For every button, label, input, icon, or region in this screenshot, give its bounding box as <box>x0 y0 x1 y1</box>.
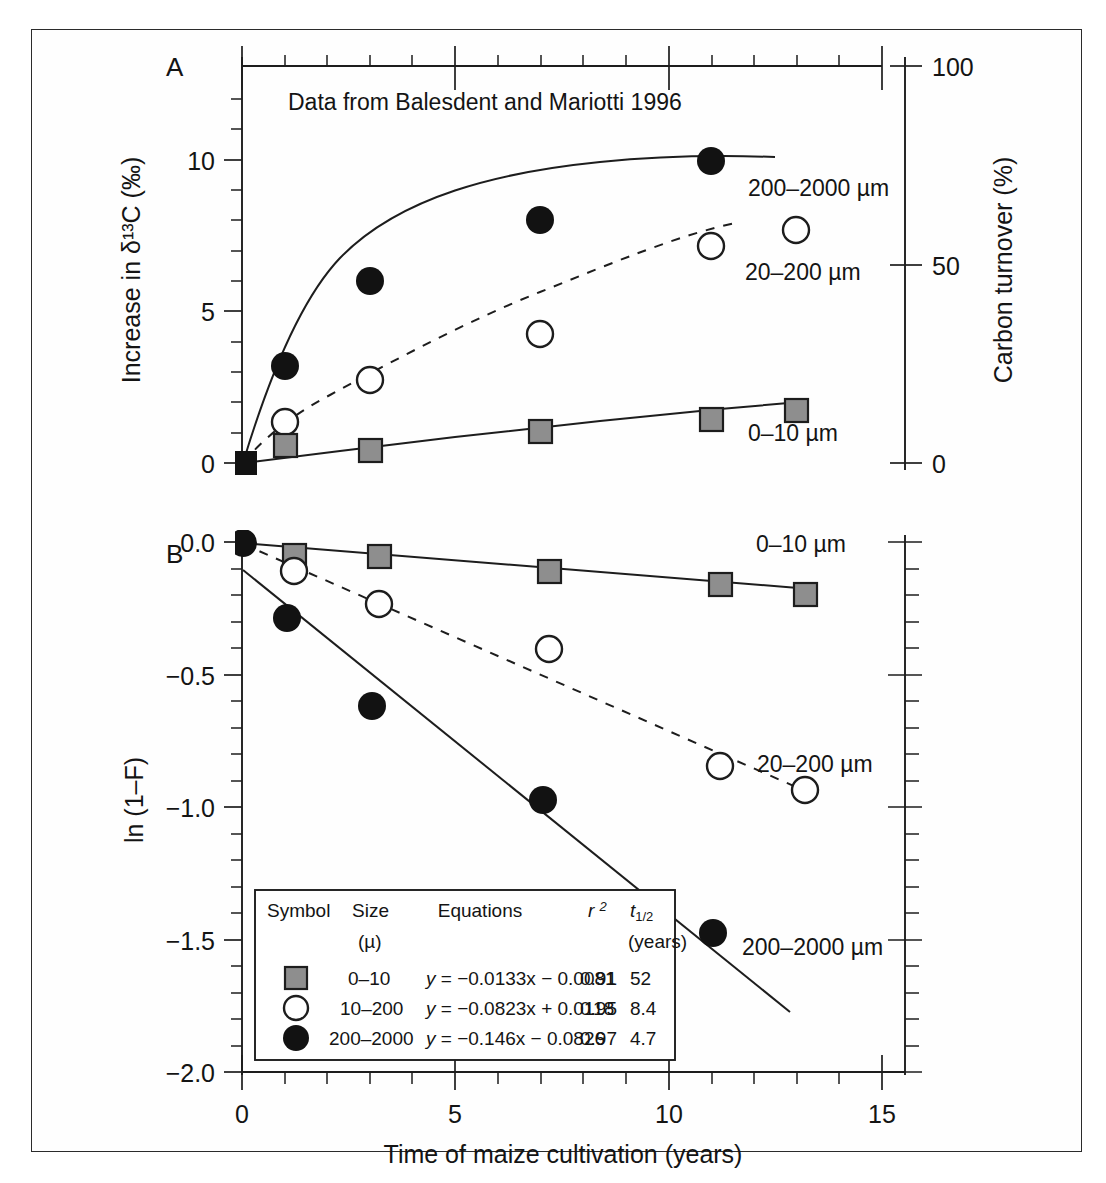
legend-equation-200-2000: y = −0.146x − 0.0826 <box>424 1028 605 1049</box>
panel-b-ytick-0: 0.0 <box>180 529 215 557</box>
legend-header-symbol: Symbol <box>267 900 330 921</box>
xtick-10: 10 <box>655 1100 683 1128</box>
panel-a-curve-200-2000 <box>243 156 775 463</box>
legend-subheader-thalf-unit: (years) <box>628 931 687 952</box>
panel-b-markers-200-2000 <box>229 529 727 947</box>
legend-box-group: Symbol Size Equations r 2 t1/2 (µ) (year… <box>255 890 687 1060</box>
legend-size-200-2000: 200–2000 <box>329 1028 414 1049</box>
panel-b-y-axis-title: ln (1–F) <box>120 757 148 843</box>
legend-size-0-10: 0–10 <box>348 968 390 989</box>
legend-thalf-200-2000: 4.7 <box>630 1028 656 1049</box>
panel-b: B <box>120 529 922 1168</box>
legend-r2-0-10: 0.91 <box>580 968 617 989</box>
legend-subheader-size-unit: (µ) <box>358 931 382 952</box>
legend-symbol-gray-square <box>285 967 307 989</box>
panel-a-right-tick-50: 50 <box>932 252 960 280</box>
panel-a-right-tick-0: 0 <box>932 450 946 478</box>
panel-a-ytick-10: 10 <box>187 147 215 175</box>
panel-b-left-ticks <box>224 542 242 1072</box>
legend-symbol-open-circle <box>284 996 308 1020</box>
xtick-15: 15 <box>868 1100 896 1128</box>
panel-b-ytick-neg15: −1.5 <box>166 927 215 955</box>
panel-a-markers-200-2000 <box>271 147 725 380</box>
legend-size-10-200: 10–200 <box>340 998 403 1019</box>
panel-a-right-ticks <box>890 66 922 463</box>
panel-a-label-0-10: 0–10 µm <box>748 420 838 446</box>
legend-symbol-filled-circle <box>283 1025 309 1051</box>
panel-a-curve-20-200 <box>243 222 740 463</box>
panel-a-right-axis-title: Carbon turnover (%) <box>989 157 1017 383</box>
panel-a-ytick-5: 5 <box>201 298 215 326</box>
panel-a-left-axis-title: Increase in δ¹³C (‰) <box>117 157 145 383</box>
panel-a-label-200-2000: 200–2000 µm <box>748 175 889 201</box>
figure-svg: A <box>0 0 1106 1183</box>
panel-b-markers-20-200 <box>281 558 818 803</box>
legend-header-size: Size <box>352 900 389 921</box>
panel-a-markers-20-200 <box>272 217 809 435</box>
panel-b-label-200-2000: 200–2000 µm <box>742 934 883 960</box>
panel-b-ytick-neg10: −1.0 <box>166 794 215 822</box>
xtick-0: 0 <box>235 1100 249 1128</box>
xtick-5: 5 <box>448 1100 462 1128</box>
panel-a-letter: A <box>166 52 184 82</box>
panel-a-right-tick-100: 100 <box>932 53 974 81</box>
panel-b-right-ticks <box>888 542 922 1072</box>
panel-a-label-20-200: 20–200 µm <box>745 259 861 285</box>
panel-b-ytick-neg20: −2.0 <box>166 1059 215 1087</box>
panel-a-source-note: Data from Balesdent and Mariotti 1996 <box>288 89 682 115</box>
legend-thalf-10-200: 8.4 <box>630 998 657 1019</box>
legend-row-10-200: 10–200 y = −0.0823x + 0.0118 0.95 8.4 <box>284 996 657 1020</box>
panel-b-ytick-neg05: −0.5 <box>166 662 215 690</box>
legend-r2-10-200: 0.95 <box>580 998 617 1019</box>
legend-header-equations: Equations <box>438 900 523 921</box>
panel-b-label-20-200: 20–200 µm <box>757 751 873 777</box>
x-axis-title: Time of maize cultivation (years) <box>384 1140 743 1168</box>
legend-row-200-2000: 200–2000 y = −0.146x − 0.0826 0.97 4.7 <box>283 1025 656 1051</box>
panel-a-top-ticks <box>242 46 882 90</box>
figure-root: A <box>0 0 1106 1183</box>
legend-thalf-0-10: 52 <box>630 968 651 989</box>
panel-a-data <box>231 147 809 475</box>
legend-r2-200-2000: 0.97 <box>580 1028 617 1049</box>
panel-a: A <box>117 46 1017 478</box>
panel-b-label-0-10: 0–10 µm <box>756 531 846 557</box>
panel-a-ytick-0: 0 <box>201 450 215 478</box>
panel-a-left-ticks <box>224 99 242 463</box>
